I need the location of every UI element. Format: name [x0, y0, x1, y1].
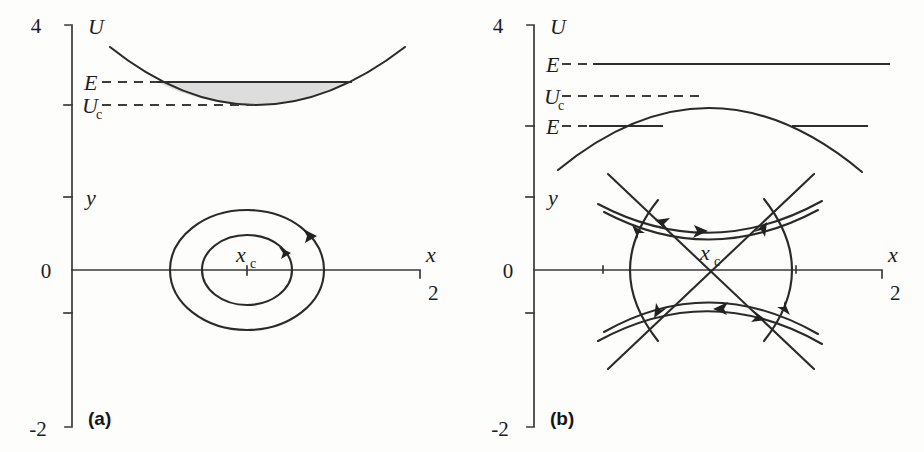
axis-U-symbol-b: U	[550, 14, 568, 39]
panel-a: 4 U E U c y 0 -2 x 2 x c (a)	[0, 0, 462, 452]
energy-E-label-a: E	[83, 70, 98, 95]
axis-y-symbol-a: y	[84, 185, 96, 210]
vertical-axis-b	[527, 25, 534, 427]
axis-y-symbol-b: y	[546, 185, 558, 210]
axis-zero-value-b: 0	[503, 259, 514, 283]
critical-point-label-a: x	[235, 242, 246, 267]
critical-point-sub-b: c	[714, 254, 720, 269]
energy-E-lower-label-b: E	[545, 114, 560, 139]
figure-root: 4 U E U c y 0 -2 x 2 x c (a)	[0, 0, 924, 452]
hyperbola-bottom-outer	[598, 311, 822, 344]
flow-arrow-right-up-icon	[777, 301, 790, 315]
panel-b: 4 U E U c E y 0 -2 x 2 x c (b)	[462, 0, 924, 452]
axis-x-right-value-b: 2	[890, 281, 901, 305]
panel-tag-b: (b)	[550, 408, 574, 429]
axis-bottom-value-a: -2	[29, 417, 47, 441]
horizontal-axis-a	[72, 270, 420, 278]
axis-top-value-a: 4	[31, 14, 42, 38]
panel-tag-a: (a)	[88, 408, 111, 429]
axis-x-symbol-b: x	[887, 242, 898, 267]
critical-point-sub-a: c	[250, 256, 256, 271]
critical-energy-Uc-sub-b: c	[558, 98, 564, 113]
axis-top-value-b: 4	[493, 14, 504, 38]
critical-energy-Uc-sub-a: c	[96, 107, 102, 122]
hyperbola-top-outer	[598, 201, 822, 233]
axis-U-symbol-a: U	[88, 14, 106, 39]
axis-bottom-value-b: -2	[491, 417, 509, 441]
axis-x-symbol-a: x	[425, 242, 436, 267]
vertical-axis-a	[65, 25, 72, 427]
potential-barrier-curve	[558, 108, 862, 172]
energy-E-upper-label-b: E	[545, 52, 560, 77]
flow-arrow-bottom-icon	[713, 302, 728, 315]
critical-point-label-b: x	[699, 240, 710, 265]
axis-x-right-value-a: 2	[428, 281, 439, 305]
axis-zero-value-a: 0	[41, 259, 52, 283]
